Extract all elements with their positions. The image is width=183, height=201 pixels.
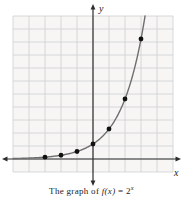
y-axis-arrow-up	[91, 4, 96, 10]
graph-canvas: yx	[0, 0, 183, 201]
data-point	[123, 97, 128, 102]
caption-function: f(x)	[102, 186, 116, 196]
data-point	[59, 153, 64, 158]
caption-equals: = 2	[115, 186, 130, 196]
y-axis-label: y	[98, 3, 104, 14]
x-axis-label: x	[173, 167, 179, 178]
data-point	[75, 149, 80, 154]
figure-caption: The graph of f(x) = 2x	[0, 186, 183, 197]
data-point	[91, 142, 96, 147]
data-point	[107, 127, 112, 132]
x-axis-arrow-left	[2, 157, 8, 162]
exponential-graph-figure: yx The graph of f(x) = 2x	[0, 0, 183, 201]
data-point	[139, 37, 144, 42]
data-point	[43, 155, 48, 160]
caption-exponent: x	[131, 184, 134, 191]
x-axis-arrow-right	[176, 157, 182, 162]
caption-text: The graph of	[49, 186, 102, 196]
